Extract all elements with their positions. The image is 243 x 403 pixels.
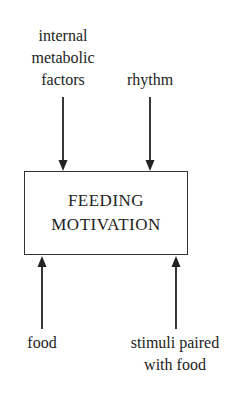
label-line: stimuli paired xyxy=(113,332,237,354)
label-stimuli-paired-with-food: stimuli paired with food xyxy=(113,332,237,376)
label-food: food xyxy=(2,332,82,354)
feeding-motivation-box: FEEDING MOTIVATION xyxy=(24,171,188,255)
arrow-rhythm-to-box xyxy=(146,97,155,171)
label-line: food xyxy=(2,332,82,354)
box-title-line2: MOTIVATION xyxy=(51,213,161,237)
label-line: with food xyxy=(113,354,237,376)
box-title-line1: FEEDING xyxy=(68,189,144,213)
arrow-food-to-box xyxy=(38,256,47,329)
arrow-stimuli-to-box xyxy=(172,256,181,329)
arrow-metabolic-to-box xyxy=(59,97,68,171)
